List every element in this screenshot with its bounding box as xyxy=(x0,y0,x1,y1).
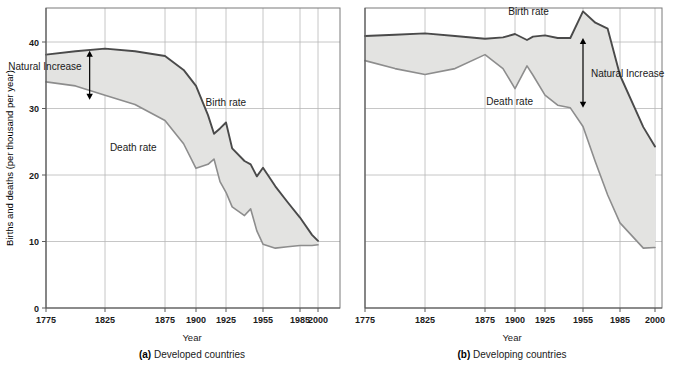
y-axis-label: Births and deaths (per thousand per year… xyxy=(4,70,15,246)
demographic-transition-figure: Births and deaths (per thousand per year… xyxy=(0,0,677,366)
x-tick-label: 2000 xyxy=(645,315,665,325)
natural-increase-label: Natural Increase xyxy=(591,68,665,79)
x-tick-label: 1955 xyxy=(573,315,593,325)
x-tick-label: 1900 xyxy=(505,315,525,325)
x-tick-label: 1825 xyxy=(95,315,115,325)
y-axis-label-text: Births and deaths (per thousand per year… xyxy=(4,70,15,246)
x-tick-label: 1925 xyxy=(216,315,236,325)
x-tick-label: 1875 xyxy=(475,315,495,325)
x-tick-label: 1775 xyxy=(355,315,375,325)
x-tick-label: 1875 xyxy=(155,315,175,325)
series-label-birth-rate: Birth rate xyxy=(508,6,549,17)
panel-a-caption: (a) Developed countries xyxy=(139,349,245,360)
x-tick-label: 2000 xyxy=(308,315,328,325)
y-tick-label: 20 xyxy=(29,171,39,181)
series-label-birth-rate: Birth rate xyxy=(206,97,247,108)
panel-a-caption-text: Developed countries xyxy=(151,349,245,360)
y-tick-label: 10 xyxy=(29,237,39,247)
x-tick-label: 1900 xyxy=(186,315,206,325)
x-tick-label: 1925 xyxy=(535,315,555,325)
panel-a-x-axis-title: Year xyxy=(182,332,201,343)
x-tick-label: 1985 xyxy=(610,315,630,325)
x-tick-label: 1825 xyxy=(415,315,435,325)
panel-b-caption-text: Developing countries xyxy=(470,349,566,360)
series-label-death-rate: Death rate xyxy=(486,96,533,107)
natural-increase-label: Natural Increase xyxy=(8,61,82,72)
x-tick-label: 1955 xyxy=(253,315,273,325)
panel-b-caption: (b) Developing countries xyxy=(458,349,567,360)
panel-b-x-axis-title: Year xyxy=(502,332,521,343)
y-tick-label: 0 xyxy=(34,304,39,314)
y-tick-label: 30 xyxy=(29,104,39,114)
panel-a-caption-prefix: (a) xyxy=(139,349,151,360)
x-tick-label: 1775 xyxy=(36,315,56,325)
y-tick-label: 40 xyxy=(29,38,39,48)
panel-b-caption-prefix: (b) xyxy=(458,349,471,360)
series-label-death-rate: Death rate xyxy=(110,142,157,153)
